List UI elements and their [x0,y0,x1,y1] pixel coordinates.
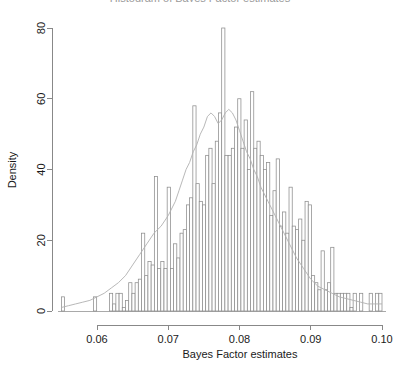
histogram-bar [251,92,254,311]
x-axis-tick-label: 0.09 [300,333,321,345]
histogram-bar [199,201,202,311]
histogram-bar [138,279,141,311]
histogram-bar [151,265,154,311]
y-axis-tick-label: 60 [35,93,47,105]
histogram-bar [369,293,372,311]
histogram-bar [270,215,273,311]
histogram-bar [215,141,218,311]
histogram-bar [93,297,96,311]
x-axis-tick-label: 0.06 [86,333,107,345]
x-axis: 0.060.070.080.090.10 [86,325,392,345]
histogram-bar [148,261,151,311]
histogram-bar [225,155,228,311]
histogram-bar [257,141,260,311]
histogram-bar [109,293,112,311]
x-axis-tick-label: 0.10 [371,333,392,345]
histogram-bar [218,113,221,311]
histogram-bar [154,177,157,311]
histogram-bar [308,205,311,311]
histogram-bar [206,155,209,311]
histogram-bar [302,240,305,311]
y-axis-tick-label: 0 [35,308,47,314]
histogram-bar [305,201,308,311]
y-axis-tick-label: 80 [35,22,47,34]
histogram-bar [167,187,170,311]
y-axis: 020406080 [35,22,52,314]
y-axis-tick-label: 40 [35,163,47,175]
histogram-bar [183,230,186,311]
histogram-bar [209,148,212,311]
histogram-bar [267,162,270,311]
histogram-bar [376,293,379,311]
histogram-bar [263,170,266,312]
histogram-bar [202,205,205,311]
histogram-bar [142,233,145,311]
histogram-bar [344,293,347,311]
histogram-bar [212,184,215,311]
histogram-bar [170,269,173,311]
histogram-bar [190,198,193,311]
histogram-bar [379,293,382,311]
histogram-bar [235,127,238,311]
histogram-bar [177,258,180,311]
histogram-bar [295,230,298,311]
histogram-bar [222,28,225,311]
histogram-figure: Histogram of Bayes Factor estimates 0204… [0,0,400,377]
histogram-bar [196,184,199,311]
histogram-plot: 020406080 0.060.070.080.090.10 Density B… [0,0,400,377]
histogram-bar [122,307,125,311]
histogram-bar [318,290,321,311]
histogram-bar [132,293,135,311]
histogram-bar [283,212,286,311]
y-axis-label: Density [6,151,18,188]
y-axis-tick-label: 20 [35,234,47,246]
histogram-bar [61,297,64,311]
histogram-bar [315,283,318,311]
histogram-bar [164,269,167,311]
histogram-bar [180,233,183,311]
histogram-bar [279,226,282,311]
histogram-bar [126,300,129,311]
histogram-bar [292,226,295,311]
histogram-bar [145,276,148,311]
x-axis-label: Bayes Factor estimates [183,348,298,360]
x-axis-tick-label: 0.07 [158,333,179,345]
histogram-bar [135,283,138,311]
histogram-bar [174,244,177,311]
histogram-bar [119,293,122,311]
histogram-bar [273,191,276,311]
histogram-bar [158,269,161,311]
histogram-bar [116,293,119,311]
histogram-bar [324,290,327,311]
histogram-bar [231,148,234,311]
histogram-bar [286,233,289,311]
histogram-bar [321,251,324,311]
histogram-bar [331,247,334,311]
histogram-bar [327,283,330,311]
histogram-bar [228,155,231,311]
histogram-bar [161,261,164,311]
histogram-bar [340,293,343,311]
histogram-bar [260,155,263,311]
histogram-bar [347,293,350,311]
histogram-bars [58,28,386,311]
histogram-bar [129,283,132,311]
histogram-bar [241,148,244,311]
histogram-bar [350,307,353,311]
histogram-bar [353,293,356,311]
histogram-bar [193,106,196,311]
histogram-bar [186,205,189,311]
histogram-bar [113,304,116,311]
x-axis-tick-label: 0.08 [229,333,250,345]
histogram-bar [247,170,250,312]
histogram-bar [276,159,279,311]
